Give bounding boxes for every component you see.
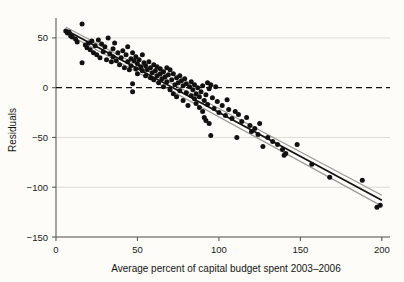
data-point	[115, 50, 120, 55]
chart-figure: 050100150200 500−50−100−150 Average perc…	[0, 0, 404, 282]
data-point	[146, 59, 151, 64]
data-point	[215, 99, 220, 104]
data-point	[208, 82, 213, 87]
data-point	[216, 110, 221, 115]
data-point	[378, 203, 383, 208]
data-point	[156, 80, 161, 85]
x-tick-label: 100	[211, 244, 227, 255]
data-point	[205, 102, 210, 107]
data-point	[252, 126, 257, 131]
data-point	[184, 90, 189, 95]
data-point	[97, 55, 102, 60]
data-point	[256, 132, 261, 137]
y-axis-title: Residuals	[7, 108, 18, 152]
data-point	[80, 21, 85, 26]
data-point	[295, 142, 300, 147]
data-point	[93, 43, 98, 48]
data-point	[260, 144, 265, 149]
data-point	[133, 66, 138, 71]
data-point	[117, 62, 122, 67]
data-point	[169, 77, 174, 82]
data-point	[226, 107, 231, 112]
data-point	[168, 67, 173, 72]
data-point	[166, 72, 171, 77]
residual-scatter-plot: 050100150200 500−50−100−150 Average perc…	[0, 0, 404, 282]
data-point	[181, 98, 186, 103]
data-point	[327, 175, 332, 180]
data-point	[89, 38, 94, 43]
data-point	[283, 151, 288, 156]
data-point	[197, 105, 202, 110]
data-point	[104, 57, 109, 62]
data-point	[177, 73, 182, 78]
data-point	[140, 52, 145, 57]
data-point	[164, 79, 169, 84]
data-point	[200, 83, 205, 88]
data-point	[111, 46, 116, 51]
data-point	[80, 60, 85, 65]
data-point	[257, 121, 262, 126]
data-point	[161, 84, 166, 89]
data-point	[109, 59, 114, 64]
data-point	[124, 52, 129, 57]
data-point	[96, 37, 101, 42]
data-point	[275, 142, 280, 147]
data-point	[280, 147, 285, 152]
x-tick-label: 50	[132, 244, 143, 255]
x-tick-label: 150	[292, 244, 308, 255]
data-point	[161, 69, 166, 74]
data-point	[236, 112, 241, 117]
data-point	[234, 135, 239, 140]
data-point	[120, 48, 125, 53]
data-point	[119, 55, 124, 60]
y-tick-label: −50	[32, 132, 48, 143]
data-point	[143, 73, 148, 78]
data-point	[210, 95, 215, 100]
data-point	[202, 98, 207, 103]
data-point	[137, 57, 142, 62]
data-point	[177, 88, 182, 93]
data-point	[174, 94, 179, 99]
data-point	[270, 139, 275, 144]
data-point	[212, 106, 217, 111]
y-tick-label: 50	[37, 32, 48, 43]
data-point	[168, 87, 173, 92]
y-tick-label: −100	[27, 182, 48, 193]
data-point	[197, 94, 202, 99]
data-point	[75, 39, 80, 44]
data-point	[239, 119, 244, 124]
x-tick-label: 0	[53, 244, 58, 255]
data-point	[128, 63, 133, 68]
data-point	[130, 50, 135, 55]
data-point	[140, 68, 145, 73]
data-point	[223, 113, 228, 118]
data-point	[229, 116, 234, 121]
data-point	[106, 35, 111, 40]
data-point	[207, 121, 212, 126]
data-point	[213, 84, 218, 89]
y-tick-label: −150	[27, 232, 48, 243]
data-point	[194, 101, 199, 106]
data-point	[244, 115, 249, 120]
data-point	[192, 96, 197, 101]
data-point	[208, 133, 213, 138]
data-point	[360, 178, 365, 183]
x-axis-title: Average percent of capital budget spent …	[111, 263, 341, 274]
data-point	[125, 44, 130, 49]
data-point	[203, 92, 208, 97]
data-point	[225, 97, 230, 102]
data-point	[102, 44, 107, 49]
chart-background	[0, 0, 404, 282]
data-point	[171, 71, 176, 76]
data-point	[309, 162, 314, 167]
data-point	[200, 109, 205, 114]
data-point	[130, 81, 135, 86]
data-point	[101, 49, 106, 54]
data-point	[111, 54, 116, 59]
data-point	[195, 85, 200, 90]
data-point	[130, 89, 135, 94]
data-point	[151, 77, 156, 82]
data-point	[135, 71, 140, 76]
data-point	[122, 65, 127, 70]
data-point	[114, 58, 119, 63]
